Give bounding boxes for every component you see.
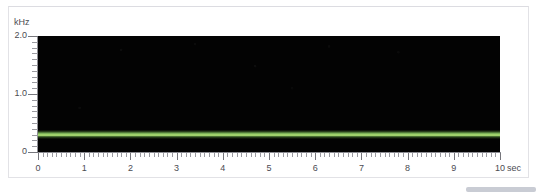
x-axis-minor-tick xyxy=(440,153,441,157)
x-axis-minor-tick xyxy=(209,153,210,157)
x-axis-major-tick xyxy=(38,153,39,160)
x-axis-minor-tick xyxy=(251,153,252,157)
x-axis-minor-tick xyxy=(144,153,145,157)
y-axis-minor-tick xyxy=(32,111,38,112)
scrollbar-stub[interactable] xyxy=(466,187,536,192)
x-axis-minor-tick xyxy=(98,153,99,157)
x-axis-minor-tick xyxy=(260,153,261,157)
x-axis-minor-tick xyxy=(52,153,53,157)
x-axis-tick-label: 3 xyxy=(174,163,179,173)
y-axis-tick-label-wrap: 0 xyxy=(0,147,27,156)
y-axis-minor-tick xyxy=(32,129,38,130)
x-axis-minor-tick xyxy=(352,153,353,157)
x-axis-minor-tick xyxy=(117,153,118,157)
y-axis-tick-label-wrap: 2.0 xyxy=(0,31,27,40)
x-axis-minor-tick xyxy=(121,153,122,157)
x-axis-minor-tick xyxy=(154,153,155,157)
x-axis-major-tick xyxy=(269,153,270,160)
x-axis-minor-tick xyxy=(472,153,473,157)
y-axis-minor-tick xyxy=(32,59,38,60)
x-axis-minor-tick xyxy=(264,153,265,157)
x-axis-minor-tick xyxy=(112,153,113,157)
x-axis-minor-tick xyxy=(343,153,344,157)
x-axis-major-tick xyxy=(361,153,362,160)
y-axis-minor-tick xyxy=(32,53,38,54)
x-axis-major-tick xyxy=(223,153,224,160)
y-axis-minor-tick xyxy=(32,140,38,141)
x-axis-minor-tick xyxy=(43,153,44,157)
x-axis-minor-tick xyxy=(287,153,288,157)
y-axis-minor-tick xyxy=(32,146,38,147)
y-axis-minor-tick xyxy=(32,100,38,101)
x-axis-major-tick xyxy=(408,153,409,160)
y-axis-minor-tick xyxy=(32,65,38,66)
x-axis-minor-tick xyxy=(241,153,242,157)
y-axis-minor-tick xyxy=(32,117,38,118)
x-axis-minor-tick xyxy=(435,153,436,157)
x-axis-tick-label: 0 xyxy=(35,163,40,173)
x-axis-minor-tick xyxy=(357,153,358,157)
y-axis-minor-tick xyxy=(32,106,38,107)
y-axis-minor-tick xyxy=(32,82,38,83)
x-axis-tick-label: 8 xyxy=(405,163,410,173)
x-axis-minor-tick xyxy=(200,153,201,157)
x-axis-minor-tick xyxy=(311,153,312,157)
x-axis-minor-tick xyxy=(149,153,150,157)
spectrogram-canvas[interactable] xyxy=(38,36,500,152)
x-axis-minor-tick xyxy=(214,153,215,157)
x-axis-tick-label: 10sec xyxy=(495,163,521,173)
x-axis-minor-tick xyxy=(482,153,483,157)
x-axis-minor-tick xyxy=(195,153,196,157)
x-axis-minor-tick xyxy=(338,153,339,157)
x-axis-major-tick xyxy=(315,153,316,160)
x-axis-minor-tick xyxy=(172,153,173,157)
x-axis-tick-label: 6 xyxy=(313,163,318,173)
y-axis-tick-label: 0 xyxy=(3,147,27,156)
x-axis-minor-tick xyxy=(445,153,446,157)
x-axis-minor-tick xyxy=(190,153,191,157)
x-axis-minor-tick xyxy=(255,153,256,157)
x-axis-minor-tick xyxy=(426,153,427,157)
x-axis-minor-tick xyxy=(181,153,182,157)
x-axis-tick-label: 10 xyxy=(495,163,505,173)
x-axis-minor-tick xyxy=(89,153,90,157)
x-axis-minor-tick xyxy=(103,153,104,157)
x-axis-minor-tick xyxy=(449,153,450,157)
x-axis-minor-tick xyxy=(463,153,464,157)
y-axis-major-tick xyxy=(28,152,38,153)
x-axis-minor-tick xyxy=(80,153,81,157)
y-axis-tick-label-wrap: 1.0 xyxy=(0,89,27,98)
x-axis-minor-tick xyxy=(306,153,307,157)
x-axis-tick-label: 4 xyxy=(220,163,225,173)
x-axis-minor-tick xyxy=(56,153,57,157)
x-axis-minor-tick xyxy=(389,153,390,157)
x-axis-minor-tick xyxy=(334,153,335,157)
x-axis-tick-label: 7 xyxy=(359,163,364,173)
spectrogram-panel: kHz 2.01.00 012345678910sec xyxy=(0,0,539,194)
x-axis-minor-tick xyxy=(477,153,478,157)
x-axis-minor-tick xyxy=(232,153,233,157)
x-axis-minor-tick xyxy=(417,153,418,157)
x-axis-minor-tick xyxy=(70,153,71,157)
y-axis-tick-label: 2.0 xyxy=(3,31,27,40)
x-axis-unit-label: sec xyxy=(507,163,521,173)
x-axis-minor-tick xyxy=(458,153,459,157)
y-axis-minor-tick xyxy=(32,71,38,72)
x-axis-minor-tick xyxy=(283,153,284,157)
x-axis-tick-label: 2 xyxy=(128,163,133,173)
x-axis-major-tick xyxy=(130,153,131,160)
x-axis-minor-tick xyxy=(47,153,48,157)
x-axis-minor-tick xyxy=(301,153,302,157)
x-axis-minor-tick xyxy=(237,153,238,157)
x-axis-tick-label: 5 xyxy=(266,163,271,173)
x-axis-tick-label: 1 xyxy=(82,163,87,173)
x-axis-minor-tick xyxy=(431,153,432,157)
x-axis-minor-tick xyxy=(140,153,141,157)
x-axis-minor-tick xyxy=(204,153,205,157)
y-axis-unit-label: kHz xyxy=(14,17,30,27)
x-axis-minor-tick xyxy=(366,153,367,157)
x-axis-minor-tick xyxy=(468,153,469,157)
x-axis-minor-tick xyxy=(371,153,372,157)
y-axis-minor-tick xyxy=(32,77,38,78)
x-axis-major-tick xyxy=(454,153,455,160)
